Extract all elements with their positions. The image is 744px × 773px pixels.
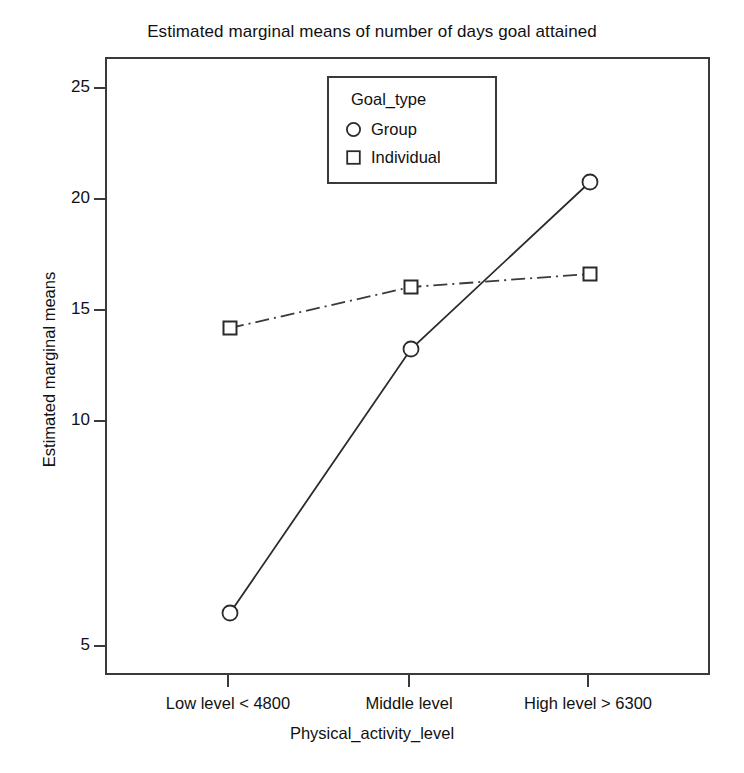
plot-area: Goal_type Group Individual xyxy=(105,57,710,675)
series-group-line xyxy=(230,182,590,613)
series-group xyxy=(223,175,598,621)
legend-label-group: Group xyxy=(371,120,417,139)
chart-title: Estimated marginal means of number of da… xyxy=(0,22,744,42)
data-point-group-high xyxy=(583,175,598,190)
data-point-group-low xyxy=(223,606,238,621)
circle-marker-icon xyxy=(345,121,362,138)
data-point-group-middle xyxy=(404,342,419,357)
x-axis-title: Physical_activity_level xyxy=(0,724,744,743)
data-point-individual-low xyxy=(224,322,237,335)
legend-label-individual: Individual xyxy=(371,148,441,167)
x-tick-label-low: Low level < 4800 xyxy=(166,694,290,713)
y-tick-label-5: 5 xyxy=(30,635,90,655)
y-axis-title: Estimated marginal means xyxy=(40,205,59,535)
legend: Goal_type Group Individual xyxy=(327,76,497,184)
x-tick-label-middle: Middle level xyxy=(365,694,452,713)
series-individual xyxy=(224,268,597,335)
data-point-individual-high xyxy=(584,268,597,281)
legend-entry-group: Group xyxy=(345,120,417,139)
x-tick-mark-middle xyxy=(408,675,410,687)
x-tick-mark-high xyxy=(587,675,589,687)
chart-figure: Estimated marginal means of number of da… xyxy=(0,0,744,773)
legend-title: Goal_type xyxy=(351,90,426,109)
legend-entry-individual: Individual xyxy=(345,148,441,167)
x-tick-label-high: High level > 6300 xyxy=(524,694,652,713)
square-marker-icon xyxy=(345,149,362,166)
x-tick-mark-low xyxy=(227,675,229,687)
data-point-individual-middle xyxy=(405,281,418,294)
y-tick-label-25: 25 xyxy=(30,77,90,97)
